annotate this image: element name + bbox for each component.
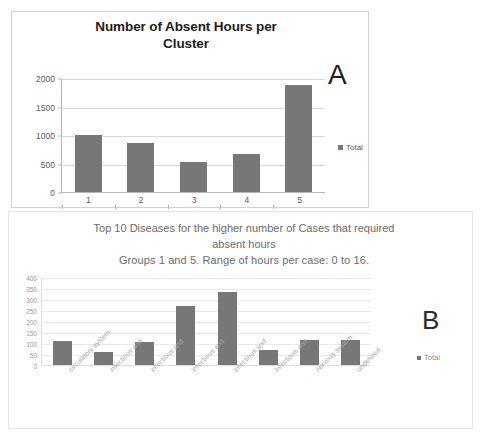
x-tick-label: infectious and xyxy=(108,368,113,373)
y-tick-label: 150 xyxy=(26,330,41,337)
panel-a-annotation-letter: A xyxy=(328,59,347,91)
bar-slot xyxy=(167,79,220,192)
y-tick-label: 200 xyxy=(26,319,41,326)
x-tick-label: 4 xyxy=(220,195,273,205)
bar xyxy=(75,135,102,192)
bar xyxy=(53,341,72,365)
chart-a-legend-label: Total xyxy=(346,143,363,152)
x-tick-label: infectious and xyxy=(273,368,278,373)
bar-slot xyxy=(42,278,83,365)
chart-b-title-line2: absent hours xyxy=(49,236,439,252)
x-tick-label: infectious and xyxy=(232,368,237,373)
chart-b-title: Top 10 Diseases for the higher number of… xyxy=(49,220,439,268)
chart-b-title-line3: Groups 1 and 5. Range of hours per case:… xyxy=(49,252,439,268)
chart-a-legend: Total xyxy=(338,143,363,152)
bar xyxy=(259,350,278,365)
y-tick-label: 50 xyxy=(30,352,41,359)
chart-b-x-tick-labels: circulatory systeminfectious andinfectio… xyxy=(41,368,371,424)
x-tick-mark xyxy=(115,205,116,209)
panel-b-annotation-letter: B xyxy=(422,305,439,336)
bar-slot xyxy=(115,79,168,192)
x-tick-label: undefined xyxy=(355,368,360,373)
chart-a-x-tick-labels: 12345 xyxy=(62,195,326,205)
bar-slot xyxy=(272,79,325,192)
bar xyxy=(233,154,260,192)
bar xyxy=(176,306,195,365)
x-tick-mark xyxy=(273,205,274,209)
x-tick-mark xyxy=(62,205,63,209)
chart-a-x-axis xyxy=(61,192,325,193)
y-tick-label: 400 xyxy=(26,275,41,282)
x-tick-mark xyxy=(168,205,169,209)
bar xyxy=(180,162,207,192)
bar-slot xyxy=(220,79,273,192)
chart-a-title-line1: Number of Absent Hours per xyxy=(38,18,334,35)
chart-a-title-line2: Cluster xyxy=(38,35,334,52)
bar xyxy=(127,143,154,192)
x-tick-label: infectious and xyxy=(190,368,195,373)
x-tick-label: 3 xyxy=(168,195,221,205)
chart-a-plot-area: 0500100015002000 xyxy=(61,79,325,193)
chart-a-bars xyxy=(62,79,325,192)
legend-swatch-icon xyxy=(417,356,421,360)
x-tick-label: circulatory system xyxy=(67,368,72,373)
y-tick-mark xyxy=(58,193,62,194)
chart-b-title-line1: Top 10 Diseases for the higher number of… xyxy=(49,220,439,236)
bar-slot xyxy=(62,79,115,192)
x-tick-label: 2 xyxy=(115,195,168,205)
y-tick-label: 100 xyxy=(26,341,41,348)
y-tick-label: 350 xyxy=(26,286,41,293)
chart-b-legend: Total xyxy=(417,353,440,362)
bar xyxy=(218,292,237,365)
chart-a-title: Number of Absent Hours per Cluster xyxy=(38,18,334,52)
chart-b-legend-label: Total xyxy=(424,353,440,362)
y-tick-label: 0 xyxy=(33,363,41,370)
bar xyxy=(94,352,113,365)
x-tick-label: infectious and xyxy=(149,368,154,373)
x-tick-label: 5 xyxy=(273,195,326,205)
x-tick-label: nervous system xyxy=(314,368,319,373)
x-tick-mark xyxy=(220,205,221,209)
y-tick-label: 300 xyxy=(26,297,41,304)
x-tick-label: 1 xyxy=(62,195,115,205)
chart-panel-a: Number of Absent Hours per Cluster 05001… xyxy=(11,11,369,208)
legend-swatch-icon xyxy=(338,145,343,150)
bar xyxy=(285,85,312,192)
chart-panel-b: Top 10 Diseases for the higher number of… xyxy=(8,211,473,429)
y-tick-label: 250 xyxy=(26,308,41,315)
